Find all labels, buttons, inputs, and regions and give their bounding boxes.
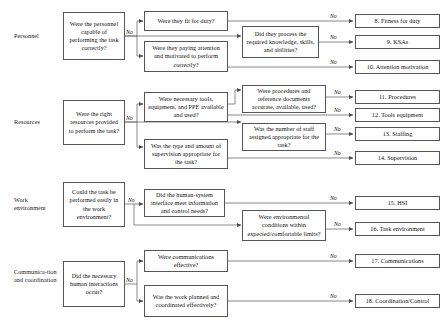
node-label: 15. HSI bbox=[359, 199, 436, 207]
node-label: 13. Staffing bbox=[359, 130, 436, 138]
node-label: Were they fit for duty? bbox=[148, 17, 224, 25]
node-question-hsi[interactable]: Did the human-system interface meet info… bbox=[144, 189, 225, 217]
node-label: 9. KSAs bbox=[359, 38, 436, 46]
node-question-paying-attention[interactable]: Were they paying attention and motivated… bbox=[144, 41, 228, 72]
edge-label-no-communication: No bbox=[126, 277, 133, 283]
edge-label-no-outcome-16: No bbox=[334, 221, 341, 227]
edge-label-no-personnel: No bbox=[126, 29, 133, 35]
edge-label-no-work-environment: No bbox=[128, 197, 135, 203]
edge-label-no-outcome-18: No bbox=[330, 293, 337, 299]
edge-label-no-outcome-11: No bbox=[334, 89, 341, 95]
edge-label-no-resources: No bbox=[126, 115, 133, 121]
node-outcome-14[interactable]: 14. Supervision bbox=[355, 151, 440, 165]
node-question-personnel[interactable]: Were the personnel capable of performing… bbox=[63, 12, 125, 60]
node-label: Was the type and amount of supervision a… bbox=[148, 142, 224, 167]
node-label: Were the right resources provided to per… bbox=[67, 110, 121, 135]
node-question-supervision[interactable]: Was the type and amount of supervision a… bbox=[144, 139, 228, 169]
node-label: Were communications effective? bbox=[148, 253, 224, 269]
node-label: 12. Tools equipment bbox=[359, 111, 436, 119]
node-outcome-10[interactable]: 10. Attention motivation bbox=[355, 60, 440, 74]
node-label: 16. Task environment bbox=[359, 225, 436, 233]
row-label-work-environment: Work environment bbox=[14, 196, 58, 212]
node-question-fit-for-duty[interactable]: Were they fit for duty? bbox=[144, 11, 228, 31]
node-question-ksa[interactable]: Did they process the required knowledge,… bbox=[242, 26, 319, 58]
node-label: 18. Coordination/Control bbox=[359, 297, 436, 305]
node-label: Were they paying attention and motivated… bbox=[148, 44, 224, 69]
node-question-work-planned[interactable]: Was the work planned and coordinated eff… bbox=[144, 285, 228, 317]
edge-label-no-outcome-10: No bbox=[330, 59, 337, 65]
node-question-environmental[interactable]: Were environmental conditions within exp… bbox=[242, 210, 326, 241]
node-outcome-8[interactable]: 8. Fitness for duty bbox=[355, 14, 440, 28]
node-question-communication[interactable]: Did the necessary human interactions occ… bbox=[63, 261, 125, 307]
node-label: Did they process the required knowledge,… bbox=[246, 30, 315, 55]
node-label: Did the human-system interface meet info… bbox=[148, 191, 221, 216]
node-label: 17. Communications bbox=[359, 257, 436, 265]
node-label: 11. Procedures bbox=[359, 93, 436, 101]
node-label: 14. Supervision bbox=[359, 154, 436, 162]
node-label: Were necessary tools, equipment, and PPE… bbox=[148, 95, 224, 120]
node-outcome-18[interactable]: 18. Coordination/Control bbox=[355, 294, 440, 308]
node-question-procedures[interactable]: Were procedures and reference documents … bbox=[242, 85, 326, 113]
node-label: 10. Attention motivation bbox=[359, 63, 436, 71]
flowchart-canvas: Personnel Resources Work environment Com… bbox=[0, 0, 447, 331]
node-label: Could the task be performed easily in th… bbox=[67, 188, 121, 221]
node-question-staffing[interactable]: Was the number of staff assigned appropr… bbox=[242, 123, 326, 151]
node-label: Did the necessary human interactions occ… bbox=[67, 272, 121, 297]
edge-label-no-outcome-17: No bbox=[330, 253, 337, 259]
node-label: Were environmental conditions within exp… bbox=[246, 213, 322, 238]
node-label: Was the number of staff assigned appropr… bbox=[246, 125, 322, 150]
row-label-communication-coordination: Communica-tion and coordination bbox=[14, 268, 60, 284]
node-outcome-15[interactable]: 15. HSI bbox=[355, 196, 440, 210]
node-question-work-environment[interactable]: Could the task be performed easily in th… bbox=[63, 182, 125, 227]
edge-label-no-outcome-14: No bbox=[334, 150, 341, 156]
edge-label-no-outcome-15: No bbox=[330, 195, 337, 201]
node-outcome-17[interactable]: 17. Communications bbox=[355, 254, 440, 268]
node-outcome-16[interactable]: 16. Task environment bbox=[355, 222, 440, 236]
row-label-resources: Resources bbox=[14, 118, 62, 126]
node-question-resources[interactable]: Were the right resources provided to per… bbox=[63, 100, 125, 145]
node-label: 8. Fitness for duty bbox=[359, 17, 436, 25]
edge-label-no-outcome-9: No bbox=[330, 34, 337, 40]
node-label: Were procedures and reference documents … bbox=[246, 87, 322, 112]
node-question-tools-ppe[interactable]: Were necessary tools, equipment, and PPE… bbox=[144, 92, 228, 122]
edge-label-no-outcome-8: No bbox=[330, 13, 337, 19]
edge-label-no-outcome-12: No bbox=[334, 107, 341, 113]
node-outcome-11[interactable]: 11. Procedures bbox=[355, 90, 440, 104]
node-label: Was the work planned and coordinated eff… bbox=[148, 293, 224, 309]
node-question-communications-effective[interactable]: Were communications effective? bbox=[144, 250, 228, 272]
node-outcome-12[interactable]: 12. Tools equipment bbox=[355, 108, 440, 122]
node-label: Were the personnel capable of performing… bbox=[67, 20, 121, 53]
edge-label-no-outcome-13: No bbox=[334, 126, 341, 132]
node-outcome-13[interactable]: 13. Staffing bbox=[355, 127, 440, 141]
row-label-personnel: Personnel bbox=[14, 32, 62, 40]
node-outcome-9[interactable]: 9. KSAs bbox=[355, 35, 440, 49]
